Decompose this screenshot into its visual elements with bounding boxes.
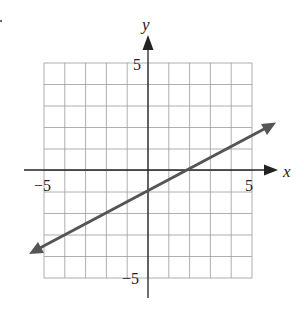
x-tick-min: −5 (34, 177, 51, 194)
y-tick-min: −5 (122, 270, 139, 287)
coordinate-plane: x y −5 5 5 −5 (0, 0, 304, 312)
plotted-line (38, 128, 266, 249)
corner-dot (0, 20, 2, 22)
x-tick-max: 5 (245, 177, 253, 194)
y-axis-label: y (140, 15, 150, 34)
x-axis-label: x (282, 162, 291, 181)
x-axis-arrow-icon (264, 165, 278, 176)
y-axis-arrow-icon (143, 35, 154, 50)
y-tick-max: 5 (133, 56, 141, 73)
